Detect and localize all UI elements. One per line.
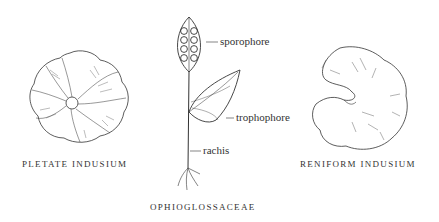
rachis-label: rachis (203, 144, 229, 156)
reniform-indusium-caption: RENIFORM INDUSIUM (300, 159, 416, 169)
pletate-indusium-drawing (30, 51, 128, 142)
illustrations (0, 0, 439, 222)
diagram: PLETATE INDUSIUM sporophore trophophore … (0, 0, 439, 222)
trophophore-label: trophophore (236, 111, 290, 123)
ophioglossaceae-caption: OPHIOGLOSSACEAE (150, 202, 256, 212)
pletate-indusium-caption: PLETATE INDUSIUM (22, 159, 127, 169)
reniform-indusium-drawing (313, 47, 408, 150)
sporophore-label: sporophore (220, 35, 270, 47)
